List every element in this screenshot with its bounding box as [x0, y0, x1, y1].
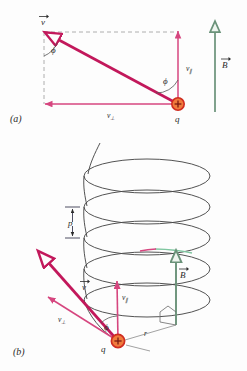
label-v-perp-a: v⊥	[107, 111, 115, 121]
label-charge-a: q	[175, 114, 180, 124]
panel-label-b: (b)	[13, 346, 25, 358]
helix-direction-arrows	[92, 193, 103, 287]
panel-b: p v	[13, 143, 210, 358]
orbit-highlight-2	[140, 249, 156, 251]
labels-a: v ϕ ϕ v∥ v⊥ q B (a)	[10, 15, 231, 125]
label-v-parallel-a: v∥	[186, 64, 193, 75]
helix-path	[84, 143, 210, 339]
panel-label-a: (a)	[10, 113, 22, 125]
label-pitch: p	[67, 218, 73, 228]
charge-particle-b	[111, 334, 124, 347]
label-angle-a-bottom: ϕ	[163, 76, 168, 86]
radius-line	[125, 325, 176, 340]
label-magnetic-field-b: B	[180, 270, 186, 280]
label-radius: r	[144, 329, 147, 338]
label-angle-a-top: ϕ	[51, 45, 56, 55]
label-charge-b: q	[101, 344, 106, 354]
label-magnetic-field-a: B	[222, 60, 228, 70]
v-parallel-vector-b	[117, 281, 118, 341]
charge-particle-a	[172, 98, 184, 110]
label-v-parallel-b: v∥	[122, 293, 129, 304]
label-velocity-b: v	[82, 282, 86, 292]
physics-figure-helical-motion: v ϕ ϕ v∥ v⊥ q B (a)	[0, 0, 247, 371]
label-v-perp-b: v⊥	[58, 315, 66, 325]
pitch-marker: p	[65, 207, 80, 238]
right-angle-marker	[160, 306, 176, 312]
label-velocity-a: v	[41, 17, 45, 27]
panel-a: v ϕ ϕ v∥ v⊥ q B (a)	[10, 15, 231, 125]
label-angle-b: ϕ	[104, 322, 109, 332]
tangent-arrow-b	[126, 345, 150, 351]
